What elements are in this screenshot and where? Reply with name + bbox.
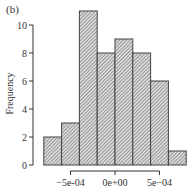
panel-label: (b): [6, 3, 19, 15]
histogram-bar: [115, 39, 133, 165]
x-axis: −5e-040e+005e−04: [56, 171, 172, 188]
x-tick-label: −5e-04: [56, 177, 84, 188]
histogram-bar: [151, 81, 169, 165]
histogram-bar: [44, 137, 62, 165]
x-tick-label: 5e−04: [147, 177, 172, 188]
histogram-bars: [44, 11, 186, 165]
histogram-bar: [133, 53, 151, 165]
y-tick-label: 10: [17, 20, 27, 31]
y-tick-label: 8: [22, 48, 27, 59]
y-tick-label: 6: [22, 76, 27, 87]
histogram-bar: [79, 11, 97, 165]
histogram-bar: [97, 53, 115, 165]
y-tick-label: 0: [22, 160, 27, 171]
y-tick-label: 4: [22, 104, 27, 115]
x-tick-label: 0e+00: [102, 177, 127, 188]
y-axis-label: Frequency: [4, 69, 15, 119]
y-tick-label: 2: [22, 132, 27, 143]
histogram-bar: [62, 123, 80, 165]
histogram-bar: [168, 151, 186, 165]
y-axis: 0246810: [17, 20, 33, 171]
histogram-chart: (b) Frequency 0246810 −5e-040e+005e−04: [0, 0, 192, 196]
plot-area: 0246810 −5e-040e+005e−04: [0, 0, 192, 196]
